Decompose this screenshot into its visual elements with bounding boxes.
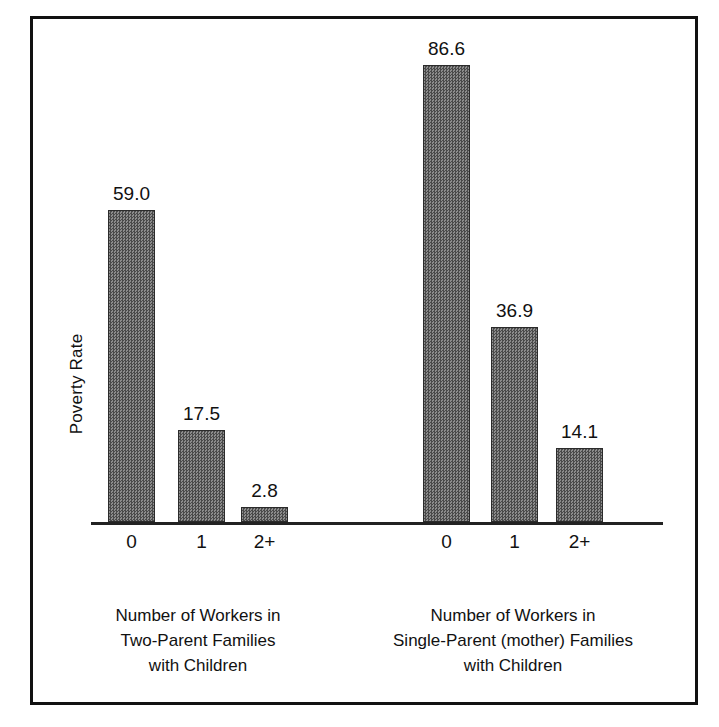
group-caption-line: Single-Parent (mother) Families [343, 628, 683, 653]
x-axis-line [91, 522, 663, 525]
y-axis-title: Poverty Rate [67, 304, 87, 464]
bar [423, 65, 470, 522]
group-caption: Number of Workers inTwo-Parent Familiesw… [28, 603, 368, 678]
group-caption-line: with Children [343, 653, 683, 678]
group-caption-line: Number of Workers in [343, 603, 683, 628]
bar [241, 507, 288, 522]
bar-value-label: 86.6 [405, 38, 488, 60]
group-caption-line: Number of Workers in [28, 603, 368, 628]
bar-value-label: 36.9 [473, 300, 556, 322]
group-caption: Number of Workers inSingle-Parent (mothe… [343, 603, 683, 678]
plot-area: Poverty Rate 59.017.52.886.636.914.1 012… [33, 19, 695, 702]
bar-value-label: 14.1 [538, 421, 621, 443]
x-tick-label: 2+ [538, 531, 621, 553]
x-tick-label: 2+ [223, 531, 306, 553]
chart-frame: Poverty Rate 59.017.52.886.636.914.1 012… [30, 16, 698, 705]
group-caption-line: with Children [28, 653, 368, 678]
bar-value-label: 2.8 [223, 480, 306, 502]
bar [491, 327, 538, 522]
bar-value-label: 59.0 [90, 183, 173, 205]
group-caption-line: Two-Parent Families [28, 628, 368, 653]
bar [178, 430, 225, 522]
bar-value-label: 17.5 [160, 403, 243, 425]
bar [108, 210, 155, 522]
bar [556, 448, 603, 522]
